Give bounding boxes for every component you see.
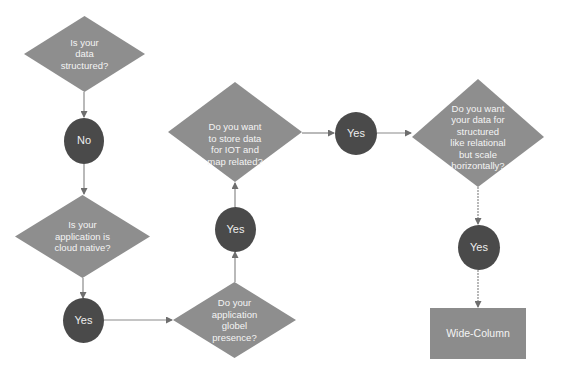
decision-label: Do you want your data for structured lik…	[450, 103, 505, 172]
answer-yes-cloud-native: Yes	[63, 298, 104, 343]
decision-label: Do your application globel presence?	[212, 297, 257, 343]
decision-data-structured: Is your data structured?	[24, 16, 145, 92]
answer-yes-global: Yes	[215, 207, 256, 252]
answer-label: No	[77, 135, 91, 147]
result-wide-column: Wide-Column	[430, 308, 526, 359]
answer-yes-iot: Yes	[335, 112, 377, 155]
flowchart: Is your data structured? No Is your appl…	[0, 0, 561, 374]
decision-cloud-native: Is your application is cloud native?	[15, 195, 150, 278]
decision-global-presence: Do your application globel presence?	[173, 282, 296, 358]
answer-label: Yes	[75, 315, 93, 327]
decision-label: Is your data structured?	[61, 37, 109, 72]
answer-label: Yes	[470, 242, 488, 254]
answer-label: Yes	[347, 128, 365, 140]
decision-label: Do you want to store data for IOT and ma…	[207, 121, 262, 167]
decision-relational-scale: Do you want your data for structured lik…	[412, 79, 544, 187]
decision-label: Is your application is cloud native?	[55, 219, 111, 254]
decision-iot-map: Do you want to store data for IOT and ma…	[168, 82, 302, 182]
result-label: Wide-Column	[446, 328, 510, 340]
answer-no: No	[64, 118, 104, 164]
answer-label: Yes	[227, 224, 245, 236]
answer-yes-relational: Yes	[458, 225, 500, 270]
